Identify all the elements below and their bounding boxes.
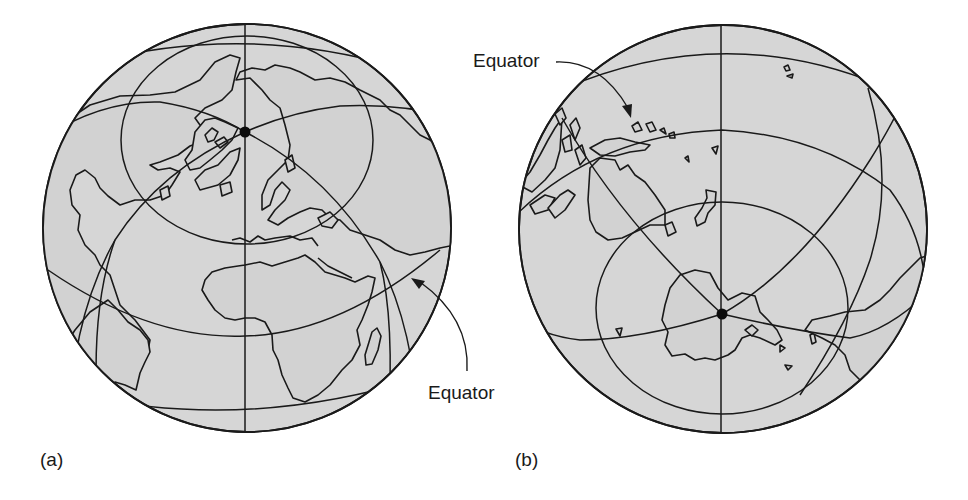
south-pole-marker-icon xyxy=(717,309,728,320)
panel-label-b: (b) xyxy=(515,450,538,469)
globe-figure xyxy=(0,0,968,500)
north-pole-marker-icon xyxy=(240,127,251,138)
equator-label-a: Equator xyxy=(428,383,495,402)
globe-b xyxy=(519,25,935,433)
panel-label-a: (a) xyxy=(40,450,63,469)
globe-a xyxy=(40,24,467,440)
equator-label-b: Equator xyxy=(473,51,540,70)
